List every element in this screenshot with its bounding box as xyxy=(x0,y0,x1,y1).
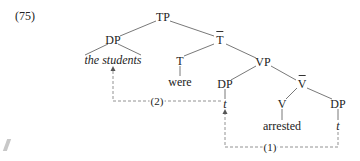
node-t-head: T xyxy=(176,55,183,67)
node-subject-text: the students xyxy=(85,54,142,66)
node-arrested: arrested xyxy=(263,120,301,132)
arrowheads xyxy=(111,66,228,114)
movement-label-2: (2) xyxy=(150,96,165,107)
branch-tbar-t xyxy=(184,44,214,56)
tree-branches xyxy=(85,21,338,120)
node-tp: TP xyxy=(156,11,170,23)
node-vp: VP xyxy=(255,56,270,68)
movement-label-1: (1) xyxy=(263,142,278,153)
node-v-head: V xyxy=(278,98,287,110)
example-number: (75) xyxy=(15,10,35,22)
branch-vbar-v xyxy=(286,88,297,99)
node-dp-object: DP xyxy=(330,98,345,110)
branch-vbar-dp xyxy=(307,88,332,99)
branch-vp-vbar xyxy=(271,66,296,80)
branch-tp-dp xyxy=(120,21,156,36)
branch-tbar-vp xyxy=(226,44,256,58)
node-dp-spec-vp: DP xyxy=(217,78,232,90)
node-trace-spec: t xyxy=(223,98,226,110)
node-trace-object: t xyxy=(336,120,339,132)
node-dp-subject: DP xyxy=(105,34,120,46)
node-t-bar: T xyxy=(216,34,223,46)
movement-path-2 xyxy=(113,71,221,101)
branch-tp-tbar xyxy=(170,21,214,36)
node-v-bar: V xyxy=(298,78,307,90)
branch-vp-dp xyxy=(231,66,256,80)
node-were: were xyxy=(168,76,191,88)
